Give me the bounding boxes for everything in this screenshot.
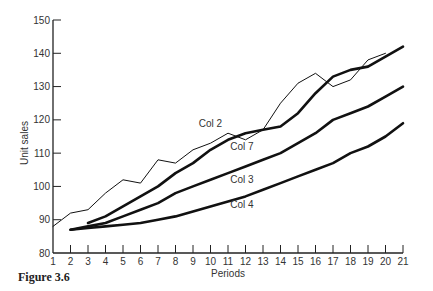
x-tick-label: 5 <box>120 256 126 267</box>
x-tick-label: 3 <box>85 256 91 267</box>
y-tick-label: 120 <box>33 114 50 125</box>
x-tick-label: 7 <box>155 256 161 267</box>
x-tick-label: 10 <box>205 256 217 267</box>
x-tick-label: 2 <box>68 256 74 267</box>
x-tick-label: 15 <box>292 256 304 267</box>
x-tick-label: 13 <box>257 256 269 267</box>
line-chart: 8090100110120130140150123456789101112131… <box>0 0 433 291</box>
series-label: Col 7 <box>230 141 254 152</box>
x-tick-label: 8 <box>173 256 179 267</box>
x-tick-label: 18 <box>345 256 357 267</box>
y-tick-label: 150 <box>33 15 50 26</box>
y-tick-label: 130 <box>33 81 50 92</box>
x-axis-title: Periods <box>211 268 245 279</box>
y-tick-label: 90 <box>39 214 51 225</box>
y-tick-label: 80 <box>39 248 51 259</box>
x-tick-label: 1 <box>50 256 56 267</box>
series-label: Col 2 <box>199 118 223 129</box>
x-tick-label: 6 <box>138 256 144 267</box>
y-tick-label: 110 <box>34 148 50 159</box>
series-col-2 <box>53 53 386 226</box>
x-tick-label: 20 <box>380 256 392 267</box>
x-tick-label: 17 <box>327 256 339 267</box>
y-axis-title: Unit sales <box>19 121 30 165</box>
x-tick-label: 11 <box>223 256 234 267</box>
figure-caption: Figure 3.6 <box>18 270 70 285</box>
x-tick-label: 9 <box>190 256 196 267</box>
x-tick-label: 12 <box>240 256 252 267</box>
x-tick-label: 4 <box>103 256 109 267</box>
series-label: Col 3 <box>230 174 254 185</box>
series-label: Col 4 <box>230 199 254 210</box>
x-tick-label: 21 <box>397 256 409 267</box>
x-tick-label: 16 <box>310 256 322 267</box>
x-tick-label: 19 <box>362 256 374 267</box>
y-tick-label: 140 <box>33 48 50 59</box>
x-tick-label: 14 <box>275 256 287 267</box>
series-lines <box>53 47 403 230</box>
y-tick-label: 100 <box>33 181 50 192</box>
